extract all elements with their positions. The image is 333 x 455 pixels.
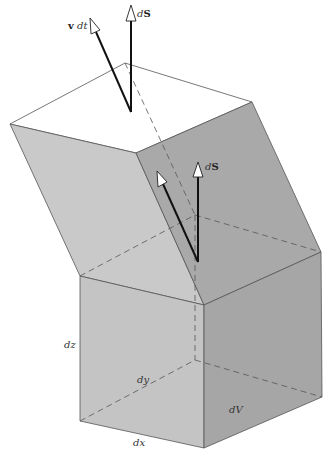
label-dy: dy — [137, 374, 149, 385]
label-v-dt: v dt — [67, 20, 88, 31]
label-dS-top: dS — [137, 8, 151, 19]
vdt-top-arrowhead-icon — [90, 18, 100, 34]
label-dS-mid: dS — [205, 161, 219, 172]
dS-top-arrowhead-icon — [126, 5, 136, 21]
label-dz: dz — [64, 339, 76, 350]
label-dx: dx — [133, 437, 145, 448]
volume-element-diagram: v dt dS dS dz dy dx dV — [0, 0, 333, 455]
label-dV: dV — [229, 404, 244, 415]
cube-front-face — [80, 276, 204, 448]
